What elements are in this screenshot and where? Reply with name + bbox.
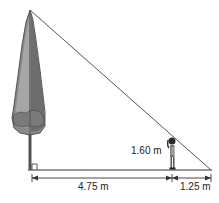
sight-line [30, 10, 211, 170]
person-height-label: 1.60 m [131, 145, 162, 156]
right-angle-marker [32, 164, 37, 170]
person-to-shadow-tip-distance-label: 1.25 m [180, 181, 211, 192]
tree-to-person-distance-label: 4.75 m [78, 181, 109, 192]
person-icon [168, 138, 176, 170]
tree-icon [12, 10, 45, 170]
diagram-canvas [0, 0, 219, 203]
